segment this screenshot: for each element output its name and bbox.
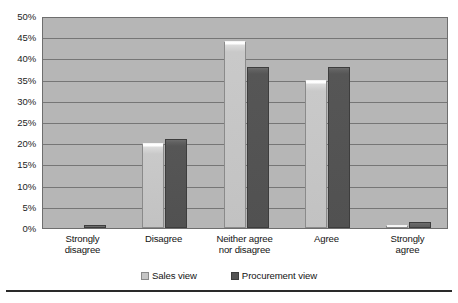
bar-sales-view — [142, 143, 164, 228]
legend-label: Sales view — [152, 271, 197, 281]
y-tick-label: 15% — [0, 160, 36, 170]
bar-procurement-view — [247, 67, 269, 228]
y-tick-label: 30% — [0, 97, 36, 107]
y-tick-label: 10% — [0, 182, 36, 192]
x-category-label: Neither agree nor disagree — [204, 233, 285, 256]
plot-area — [42, 17, 448, 229]
bar-sales-view — [224, 41, 246, 228]
y-tick-label: 5% — [0, 203, 36, 213]
x-category-label: Strongly disagree — [42, 233, 123, 256]
y-tick-label: 20% — [0, 139, 36, 149]
y-tick-label: 25% — [0, 118, 36, 128]
x-axis-category-labels: Strongly disagreeDisagreeNeither agree n… — [42, 233, 448, 265]
x-category-label: Agree — [286, 233, 367, 244]
bottom-divider — [6, 290, 452, 292]
chart-legend: Sales viewProcurement view — [0, 268, 458, 284]
legend-label: Procurement view — [242, 271, 317, 281]
y-tick-label: 45% — [0, 33, 36, 43]
legend-entry-procurement-view[interactable]: Procurement view — [231, 271, 317, 281]
x-category-label: Strongly agree — [367, 233, 448, 256]
y-tick-label: 0% — [0, 224, 36, 234]
y-tick-label: 50% — [0, 12, 36, 22]
x-category-label: Disagree — [123, 233, 204, 244]
bar-procurement-view — [409, 222, 431, 228]
bar-chart-figure: 0%5%10%15%20%25%30%35%40%45%50% Strongly… — [0, 0, 458, 303]
y-tick-label: 40% — [0, 54, 36, 64]
y-tick-label: 35% — [0, 76, 36, 86]
legend-swatch-icon — [231, 272, 239, 280]
bar-procurement-view — [84, 225, 106, 228]
legend-entry-sales-view[interactable]: Sales view — [141, 271, 197, 281]
y-axis-tick-labels: 0%5%10%15%20%25%30%35%40%45%50% — [0, 0, 40, 303]
legend-swatch-icon — [141, 272, 149, 280]
bar-sales-view — [386, 225, 408, 228]
bar-groups — [43, 18, 447, 228]
bar-procurement-view — [165, 139, 187, 228]
bar-sales-view — [305, 80, 327, 228]
bar-procurement-view — [328, 67, 350, 228]
